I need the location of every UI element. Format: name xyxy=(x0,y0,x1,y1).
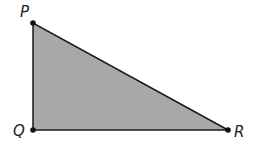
triangle-pqr xyxy=(33,23,228,130)
triangle-diagram: P Q R xyxy=(0,0,258,146)
diagram-canvas: P Q R xyxy=(0,0,258,146)
vertex-q-label: Q xyxy=(13,122,25,140)
vertex-r-label: R xyxy=(234,123,244,141)
vertex-p-dot xyxy=(30,20,36,26)
vertex-q-dot xyxy=(30,127,36,133)
vertex-p-label: P xyxy=(20,3,30,21)
vertex-r-dot xyxy=(225,127,231,133)
